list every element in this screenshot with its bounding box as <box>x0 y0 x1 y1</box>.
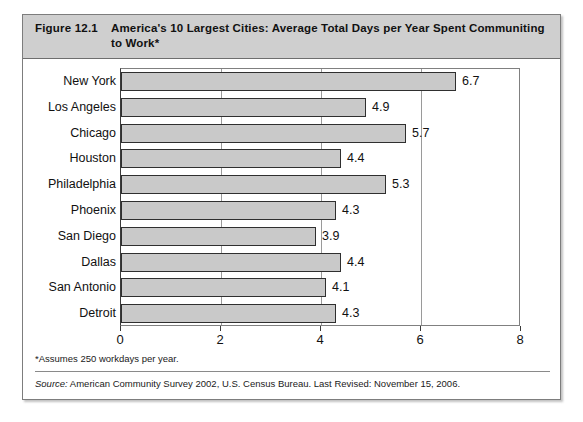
bar-value-label: 4.4 <box>347 254 364 271</box>
y-axis-label: Dallas <box>23 255 116 269</box>
y-axis-label: San Antonio <box>23 280 116 294</box>
plot-area: 6.74.95.74.45.34.33.94.44.14.3 <box>120 68 520 326</box>
bar-value-label: 3.9 <box>322 228 339 245</box>
bar-row: 6.7 <box>121 69 521 95</box>
bar-row: 4.9 <box>121 95 521 121</box>
x-tick-label: 0 <box>116 332 123 347</box>
bar <box>121 149 341 168</box>
bar <box>121 227 316 246</box>
bar <box>121 124 406 143</box>
bar <box>121 278 326 297</box>
figure-card: Figure 12.1 America's 10 Largest Cities:… <box>22 14 561 400</box>
source-line: Source: American Community Survey 2002, … <box>35 377 550 390</box>
bar-chart: New YorkLos AngelesChicagoHoustonPhilade… <box>23 59 560 349</box>
y-axis-label: Houston <box>23 151 116 165</box>
y-axis-label: San Diego <box>23 229 116 243</box>
bar-value-label: 4.9 <box>372 99 389 116</box>
figure-notes: *Assumes 250 workdays per year. Source: … <box>35 352 550 390</box>
bar <box>121 201 336 220</box>
x-tick <box>420 326 421 331</box>
bar <box>121 72 456 91</box>
bar-row: 4.4 <box>121 250 521 276</box>
bar-row: 4.3 <box>121 198 521 224</box>
bar-value-label: 5.7 <box>412 125 429 142</box>
bar-row: 5.7 <box>121 121 521 147</box>
figure-header: Figure 12.1 America's 10 Largest Cities:… <box>23 15 560 59</box>
x-axis: 02468 <box>120 326 520 352</box>
figure-title: America's 10 Largest Cities: Average Tot… <box>111 21 550 51</box>
bar-value-label: 4.4 <box>347 150 364 167</box>
bar-row: 3.9 <box>121 224 521 250</box>
bar <box>121 253 341 272</box>
bar <box>121 175 386 194</box>
y-axis-label: Phoenix <box>23 203 116 217</box>
x-tick-label: 2 <box>216 332 223 347</box>
source-text: American Community Survey 2002, U.S. Cen… <box>68 378 460 389</box>
bar-row: 5.3 <box>121 172 521 198</box>
x-tick-label: 6 <box>416 332 423 347</box>
bar-row: 4.3 <box>121 301 521 327</box>
x-tick <box>320 326 321 331</box>
y-axis-label: New York <box>23 74 116 88</box>
x-tick <box>120 326 121 331</box>
footnote: *Assumes 250 workdays per year. <box>35 352 550 365</box>
bar-value-label: 6.7 <box>462 73 479 90</box>
source-divider <box>35 371 550 372</box>
y-axis-label: Detroit <box>23 306 116 320</box>
bar-value-label: 4.3 <box>342 202 359 219</box>
y-axis-label: Chicago <box>23 126 116 140</box>
y-axis-category-labels: New YorkLos AngelesChicagoHoustonPhilade… <box>23 68 116 338</box>
y-axis-label: Philadelphia <box>23 177 116 191</box>
bar-value-label: 4.1 <box>332 279 349 296</box>
y-axis-label: Los Angeles <box>23 100 116 114</box>
x-tick-label: 8 <box>516 332 523 347</box>
x-tick <box>220 326 221 331</box>
figure-number: Figure 12.1 <box>35 22 98 34</box>
bar-value-label: 4.3 <box>342 305 359 322</box>
figure-body: New YorkLos AngelesChicagoHoustonPhilade… <box>23 59 560 399</box>
bar <box>121 304 336 323</box>
x-tick <box>520 326 521 331</box>
bar-row: 4.1 <box>121 275 521 301</box>
bar-value-label: 5.3 <box>392 176 409 193</box>
bar <box>121 98 366 117</box>
x-tick-label: 4 <box>316 332 323 347</box>
source-label: Source: <box>35 378 68 389</box>
bar-row: 4.4 <box>121 146 521 172</box>
